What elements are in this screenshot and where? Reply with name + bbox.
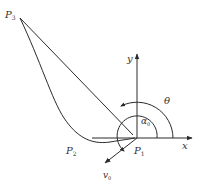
trajectory-diagram: P3 P2 P1 v0 y x θ α0	[0, 0, 201, 189]
line-p3-p1	[20, 18, 133, 135]
label-p1: P1	[133, 145, 145, 157]
trajectory-curve	[20, 18, 135, 143]
label-theta: θ	[164, 95, 170, 106]
label-alpha0: α0	[141, 116, 150, 127]
label-v0: v0	[103, 170, 111, 181]
label-x-axis: x	[182, 140, 188, 151]
label-y-axis: y	[126, 53, 133, 64]
label-p2: P2	[65, 145, 77, 157]
label-p3: P3	[4, 9, 16, 21]
